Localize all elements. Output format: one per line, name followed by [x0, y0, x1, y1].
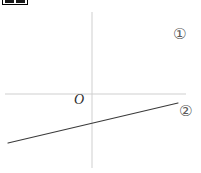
plot-canvas: [0, 0, 201, 173]
coordinate-plane-figure: O ① ②: [0, 0, 201, 173]
region-marker-1: ①: [173, 27, 186, 42]
origin-label: O: [74, 93, 84, 107]
data-line: [8, 103, 178, 143]
region-marker-2: ②: [179, 104, 192, 119]
